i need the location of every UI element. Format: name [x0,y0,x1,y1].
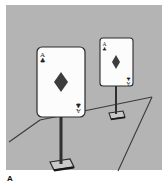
figure-root: A ♣ A ♣ A ♣ A ♣ [0,0,168,188]
far-card-post [115,86,117,114]
near-card-club-icon-bottom: ♣ [75,101,81,109]
near-card-post [60,117,63,164]
near-card-club-icon-top: ♣ [40,57,46,65]
far-card-club-icon-bottom: ♣ [126,76,130,82]
figure-label: A [7,174,13,184]
scene-illustration: A ♣ A ♣ A ♣ A ♣ [0,0,168,188]
far-card-club-icon-top: ♣ [102,46,106,52]
